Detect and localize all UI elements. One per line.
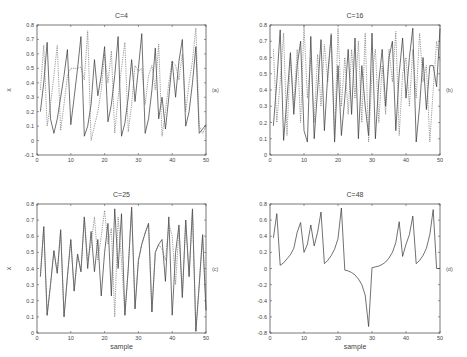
y-tick-label: 0.6 bbox=[259, 217, 267, 223]
y-tick-label: 0 bbox=[264, 266, 267, 272]
x-tick-label: 20 bbox=[335, 157, 341, 163]
x-tick-label: 20 bbox=[335, 335, 341, 341]
y-axis-label: x bbox=[5, 266, 12, 270]
x-tick-label: 0 bbox=[268, 335, 271, 341]
x-axis-label: sample bbox=[110, 343, 133, 351]
y-tick-label: 0.4 bbox=[26, 80, 34, 86]
chart-title: C=16 bbox=[347, 12, 364, 19]
figure: 01020304050-0.100.10.20.30.40.50.60.70.8… bbox=[0, 0, 467, 357]
x-tick-label: 20 bbox=[102, 335, 108, 341]
y-tick-label: 0.7 bbox=[259, 38, 267, 44]
x-tick-label: 50 bbox=[437, 157, 443, 163]
y-tick-label: 0 bbox=[264, 152, 267, 158]
y-tick-label: 0.3 bbox=[26, 94, 34, 100]
y-tick-label: 0.3 bbox=[26, 282, 34, 288]
x-tick-label: 10 bbox=[301, 335, 307, 341]
x-tick-label: 0 bbox=[35, 335, 38, 341]
y-tick-label: 0.2 bbox=[259, 249, 267, 255]
y-tick-label: 0.1 bbox=[26, 123, 34, 129]
y-tick-label: -0.8 bbox=[258, 330, 267, 336]
y-tick-label: 0.1 bbox=[259, 136, 267, 142]
y-tick-label: 0.8 bbox=[259, 22, 267, 28]
subplot-c: 0102030405000.10.20.30.40.50.60.70.8C=25… bbox=[5, 191, 219, 351]
x-tick-label: 30 bbox=[135, 335, 141, 341]
panel-label: (c) bbox=[212, 266, 219, 272]
y-tick-label: 0.2 bbox=[26, 298, 34, 304]
x-tick-label: 50 bbox=[203, 157, 209, 163]
y-tick-label: 0 bbox=[31, 330, 34, 336]
y-tick-label: 0.7 bbox=[26, 217, 34, 223]
x-axis-label: sample bbox=[344, 343, 367, 351]
y-tick-label: 0.2 bbox=[259, 120, 267, 126]
axes-box bbox=[270, 204, 440, 333]
x-tick-label: 40 bbox=[169, 335, 175, 341]
y-tick-label: 0.5 bbox=[26, 65, 34, 71]
x-tick-label: 0 bbox=[268, 157, 271, 163]
y-tick-label: 0.4 bbox=[26, 266, 34, 272]
x-tick-label: 40 bbox=[403, 157, 409, 163]
y-tick-label: -0.6 bbox=[258, 314, 267, 320]
x-tick-label: 30 bbox=[369, 157, 375, 163]
x-tick-label: 10 bbox=[68, 157, 74, 163]
chart-title: C=4 bbox=[115, 12, 128, 19]
panel-label: (d) bbox=[446, 266, 453, 272]
series-line-solid bbox=[40, 34, 206, 137]
y-tick-label: 0.6 bbox=[26, 233, 34, 239]
x-tick-label: 40 bbox=[169, 157, 175, 163]
y-tick-label: 0.5 bbox=[26, 249, 34, 255]
chart-title: C=25 bbox=[113, 191, 130, 198]
y-tick-label: -0.4 bbox=[258, 298, 267, 304]
panel-label: (a) bbox=[212, 87, 219, 93]
x-tick-label: 30 bbox=[135, 157, 141, 163]
x-tick-label: 0 bbox=[35, 157, 38, 163]
y-tick-label: -0.2 bbox=[258, 282, 267, 288]
subplot-b: 0102030405000.10.20.30.40.50.60.70.8C=16… bbox=[259, 12, 453, 163]
y-tick-label: -0.1 bbox=[25, 152, 34, 158]
chart-title: C=48 bbox=[347, 191, 364, 198]
y-tick-label: 0.6 bbox=[26, 51, 34, 57]
y-tick-label: 0.1 bbox=[26, 314, 34, 320]
y-tick-label: 0.8 bbox=[26, 201, 34, 207]
series-line-solid bbox=[40, 207, 206, 331]
y-tick-label: 0.2 bbox=[26, 109, 34, 115]
y-tick-label: 0 bbox=[31, 138, 34, 144]
x-tick-label: 20 bbox=[102, 157, 108, 163]
x-tick-label: 40 bbox=[403, 335, 409, 341]
y-tick-label: 0.5 bbox=[259, 71, 267, 77]
series-line-solid bbox=[273, 208, 440, 327]
subplot-a: 01020304050-0.100.10.20.30.40.50.60.70.8… bbox=[5, 12, 219, 163]
y-tick-label: 0.4 bbox=[259, 233, 267, 239]
y-tick-label: 0.8 bbox=[26, 22, 34, 28]
y-tick-label: 0.6 bbox=[259, 55, 267, 61]
y-tick-label: 0.3 bbox=[259, 103, 267, 109]
x-tick-label: 30 bbox=[369, 335, 375, 341]
y-tick-label: 0.4 bbox=[259, 87, 267, 93]
x-tick-label: 10 bbox=[68, 335, 74, 341]
subplot-d: 01020304050-0.8-0.6-0.4-0.200.20.40.60.8… bbox=[258, 191, 453, 351]
x-tick-label: 10 bbox=[301, 157, 307, 163]
y-tick-label: 0.7 bbox=[26, 36, 34, 42]
panel-label: (b) bbox=[446, 87, 453, 93]
y-tick-label: 0.8 bbox=[259, 201, 267, 207]
x-tick-label: 50 bbox=[203, 335, 209, 341]
y-axis-label: x bbox=[5, 88, 12, 92]
x-tick-label: 50 bbox=[437, 335, 443, 341]
